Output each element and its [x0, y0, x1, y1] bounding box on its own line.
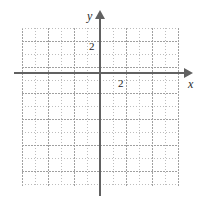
grid-line-vertical-minor [113, 28, 114, 186]
grid-line-vertical-major [74, 28, 75, 186]
grid-line-vertical-minor [35, 28, 36, 186]
grid-line-vertical-major [152, 28, 153, 186]
y-axis-tick-label-2: 2 [89, 41, 95, 52]
grid-line-vertical-minor [61, 28, 62, 186]
grid-line-vertical-major [126, 28, 127, 186]
grid-line-vertical-minor [165, 28, 166, 186]
x-axis-label: x [188, 78, 193, 90]
grid-line-vertical-minor [87, 28, 88, 186]
x-axis-tick-label-2: 2 [118, 78, 124, 89]
grid-line-vertical-major [48, 28, 49, 186]
coordinate-plane-figure: x y 2 2 [0, 0, 203, 208]
y-axis-arrowhead-icon [95, 10, 105, 19]
y-axis-label: y [87, 10, 92, 22]
grid-line-vertical-major [22, 28, 23, 186]
y-axis-line [99, 16, 101, 196]
grid-line-vertical-minor [139, 28, 140, 186]
grid-line-vertical-major [178, 28, 179, 186]
